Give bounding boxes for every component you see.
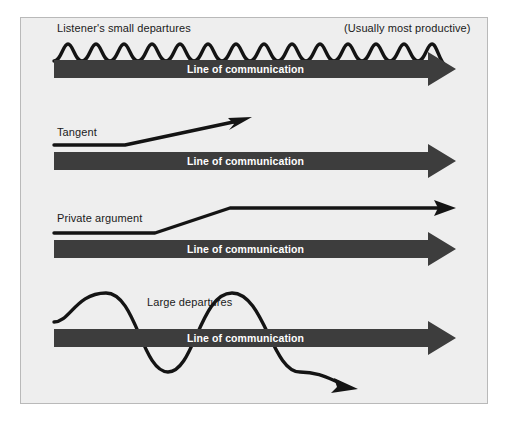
diagram-root: Line of communication Listener's small d… (0, 0, 509, 424)
caption-tangent: Tangent (57, 126, 97, 138)
note-usually-most-productive: (Usually most productive) (344, 22, 471, 34)
caption-private-argument: Private argument (57, 212, 142, 224)
caption-small-departures: Listener's small departures (57, 22, 191, 34)
caption-large-departures: Large departures (147, 296, 233, 308)
bar-label-1: Line of communication (187, 63, 304, 75)
bar-label-3: Line of communication (187, 243, 304, 255)
communication-departures-diagram: Line of communication Listener's small d… (0, 0, 509, 424)
bar-label-4: Line of communication (187, 332, 304, 344)
bar-label-2: Line of communication (187, 155, 304, 167)
